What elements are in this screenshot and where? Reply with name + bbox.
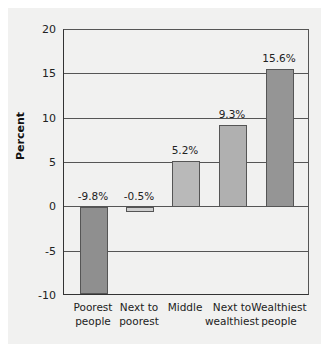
bar-value-label: 9.3% (207, 108, 257, 120)
bar-value-label: 5.2% (160, 144, 210, 156)
plot-area (63, 29, 309, 295)
y-tick-label: -5 (26, 244, 56, 257)
y-tick-label: 5 (26, 156, 56, 169)
y-tick-label: 20 (26, 23, 56, 36)
y-tick-label: 15 (26, 67, 56, 80)
bar (80, 207, 108, 294)
bar-value-label: -9.8% (68, 190, 118, 202)
y-tick-label: -10 (26, 289, 56, 302)
y-tick-label: 0 (26, 200, 56, 213)
bar (219, 125, 247, 207)
bar (126, 207, 154, 211)
bar (266, 69, 294, 207)
bar (172, 161, 200, 207)
bar-value-label: 15.6% (254, 52, 304, 64)
bar-value-label: -0.5% (114, 190, 164, 202)
y-tick-label: 10 (26, 111, 56, 124)
x-tick-label: Wealthiestpeople (249, 300, 309, 328)
